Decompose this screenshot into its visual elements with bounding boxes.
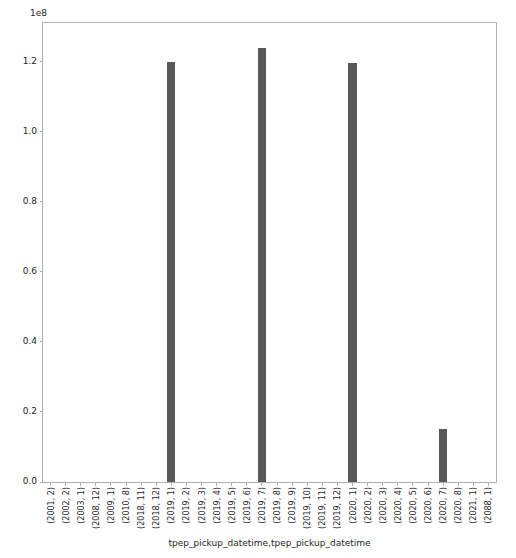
tick-mark [443,482,444,486]
tick-mark [277,482,278,486]
tick-mark [95,482,96,486]
y-axis-tick-label: 0.4 [23,336,37,346]
x-axis-label: tpep_pickup_datetime,tpep_pickup_datetim… [42,538,497,548]
tick-mark [65,482,66,486]
tick-mark [141,482,142,486]
tick-mark [458,482,459,486]
y-axis-tick-label: 0.8 [23,196,37,206]
tick-mark [488,482,489,486]
tick-mark [412,482,413,486]
tick-mark [186,482,187,486]
y-axis-tick-label: 0.2 [23,406,37,416]
tick-mark [50,482,51,486]
tick-mark [201,482,202,486]
y-axis-tick-label: 0.6 [23,266,37,276]
tick-mark [473,482,474,486]
bars-layer [43,23,496,482]
y-axis-tick-label: 0.0 [23,476,37,486]
tick-mark [246,482,247,486]
bar [258,48,266,482]
tick-mark [171,482,172,486]
tick-mark [231,482,232,486]
plot-area: 0.00.20.40.60.81.01.2 (2001, 2)(2002, 2)… [42,22,497,483]
tick-mark [292,482,293,486]
tick-mark [322,482,323,486]
bar [167,62,175,482]
tick-mark [352,482,353,486]
tick-mark [261,482,262,486]
chart-figure: 1e8 0.00.20.40.60.81.01.2 (2001, 2)(2002… [0,0,516,558]
tick-mark [397,482,398,486]
tick-mark [156,482,157,486]
tick-mark [367,482,368,486]
tick-mark [307,482,308,486]
bar [439,429,447,482]
tick-mark [428,482,429,486]
tick-mark [110,482,111,486]
y-axis-tick-label: 1.2 [23,56,37,66]
tick-mark [80,482,81,486]
tick-mark [337,482,338,486]
y-axis-tick-label: 1.0 [23,126,37,136]
y-axis-offset-label: 1e8 [30,8,47,18]
bar [348,63,356,482]
tick-mark [216,482,217,486]
tick-mark [382,482,383,486]
tick-mark [126,482,127,486]
